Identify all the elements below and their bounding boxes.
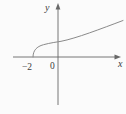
- y-axis-label: y: [45, 3, 49, 13]
- y-axis-arrowhead: [56, 3, 61, 10]
- x-intercept-tick-label: −2: [22, 62, 32, 72]
- curve-line: [33, 21, 123, 58]
- function-graph-figure: y x 0 −2: [0, 0, 126, 114]
- origin-tick-label: 0: [50, 61, 55, 71]
- plot-canvas: [0, 0, 126, 114]
- x-axis-label: x: [118, 59, 122, 69]
